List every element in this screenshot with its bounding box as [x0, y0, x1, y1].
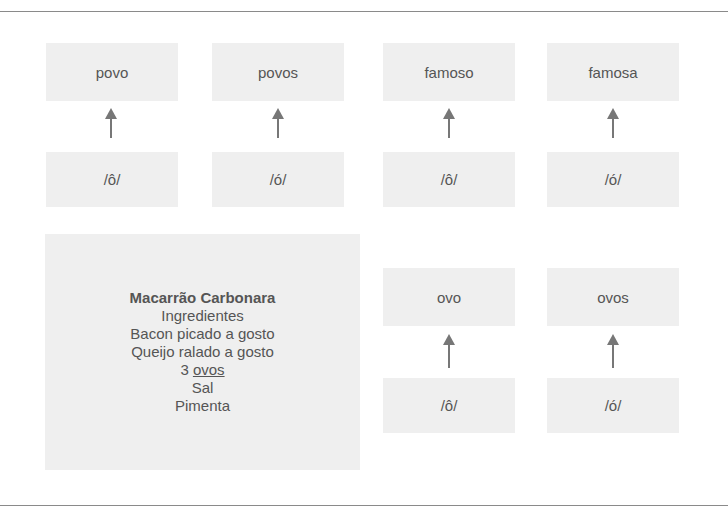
- recipe-item-quantity: 3: [180, 361, 193, 378]
- arrow-up-icon: [606, 334, 620, 368]
- phoneme-box-famosa: /ó/: [547, 152, 679, 207]
- phoneme-label: /ó/: [605, 397, 622, 414]
- word-label: ovo: [437, 289, 461, 306]
- word-label: povo: [96, 64, 129, 81]
- word-box-famosa: famosa: [547, 43, 679, 101]
- word-box-famoso: famoso: [383, 43, 515, 101]
- phoneme-box-povos: /ó/: [212, 152, 344, 207]
- phoneme-label: /ô/: [441, 171, 458, 188]
- recipe-item-highlight: ovos: [193, 361, 225, 378]
- word-box-povo: povo: [46, 43, 178, 101]
- phoneme-label: /ó/: [270, 171, 287, 188]
- word-box-ovo: ovo: [383, 268, 515, 326]
- recipe-item: Pimenta: [175, 397, 230, 415]
- word-label: famosa: [588, 64, 637, 81]
- phoneme-box-ovos: /ó/: [547, 378, 679, 433]
- recipe-item: Sal: [192, 379, 214, 397]
- arrow-up-icon: [442, 334, 456, 368]
- phoneme-label: /ô/: [441, 397, 458, 414]
- recipe-subtitle: Ingredientes: [161, 307, 244, 325]
- top-divider: [0, 11, 728, 12]
- phoneme-box-ovo: /ô/: [383, 378, 515, 433]
- arrow-up-icon: [271, 108, 285, 138]
- phoneme-box-povo: /ô/: [46, 152, 178, 207]
- arrow-up-icon: [104, 108, 118, 138]
- recipe-title: Macarrão Carbonara: [130, 289, 276, 307]
- phoneme-box-famoso: /ô/: [383, 152, 515, 207]
- recipe-item: Queijo ralado a gosto: [131, 343, 274, 361]
- word-label: povos: [258, 64, 298, 81]
- phoneme-label: /ó/: [605, 171, 622, 188]
- recipe-card: Macarrão Carbonara Ingredientes Bacon pi…: [45, 234, 360, 470]
- word-box-povos: povos: [212, 43, 344, 101]
- arrow-up-icon: [442, 108, 456, 138]
- word-label: famoso: [424, 64, 473, 81]
- word-label: ovos: [597, 289, 629, 306]
- recipe-item: Bacon picado a gosto: [130, 325, 274, 343]
- phoneme-label: /ô/: [104, 171, 121, 188]
- word-box-ovos: ovos: [547, 268, 679, 326]
- recipe-item: 3 ovos: [180, 361, 224, 379]
- arrow-up-icon: [606, 108, 620, 138]
- bottom-divider: [0, 505, 728, 506]
